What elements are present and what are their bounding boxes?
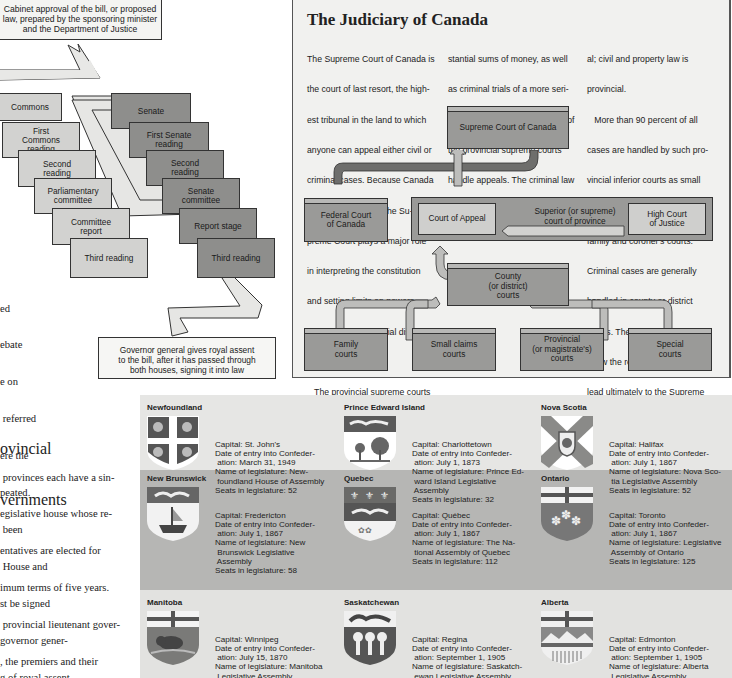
assent-line: Governor general gives royal assent (99, 345, 275, 355)
text-line: e on (0, 376, 98, 388)
court-label: Familycourts (334, 340, 358, 359)
court-label: High Courtof Justice (647, 210, 687, 229)
text-line: stantial sums of money, as well (448, 54, 575, 64)
province-name: Newfoundland (147, 403, 337, 412)
text-line: est tribunal in the land to which (307, 115, 434, 125)
province-new-brunswick: New Brunswick Capital: FrederictonDate o… (147, 474, 337, 483)
step-label: Third reading (212, 254, 261, 263)
newfoundland-coat-of-arms-icon (147, 416, 199, 470)
province-info: Capital: FrederictonDate of entry into C… (215, 492, 315, 594)
assent-line: both houses, signing it into law (99, 365, 275, 375)
province-info: Capital: ReginaDate of entry into Confed… (412, 616, 522, 678)
judiciary-title: The Judiciary of Canada (307, 10, 488, 30)
step-label: Third reading (85, 254, 134, 263)
province-ontario: Ontario ✽✽✽ Capital: TorontoDate of entr… (541, 474, 731, 483)
nova-scotia-coat-of-arms-icon (541, 416, 593, 470)
svg-text:✽: ✽ (561, 508, 571, 522)
step-label: Committee report (69, 218, 113, 236)
text-line: More than 90 percent of all (587, 115, 708, 125)
superior-arrow (500, 225, 626, 237)
small-claims-courts-box: Small claimscourts (412, 328, 496, 371)
text-line: provinces each have a sin- (0, 472, 140, 484)
county-courts-box: County(or district)courts (447, 263, 569, 306)
provincial-governments-body: provinces each have a sin- egislative ho… (0, 447, 140, 678)
svg-text:⚜: ⚜ (350, 490, 359, 501)
province-name: Manitoba (147, 598, 337, 607)
court-label: County(or district)courts (488, 268, 527, 301)
commons-third-reading-box: Third reading (70, 238, 148, 278)
federal-court-box: Federal Courtof Canada (304, 198, 388, 242)
ontario-coat-of-arms-icon: ✽✽✽ (541, 487, 593, 541)
court-of-appeal-box: Court of Appeal (418, 203, 496, 235)
province-pei: Prince Edward Island Capital: Charlottet… (344, 403, 534, 412)
step-label: First Senate reading (141, 131, 197, 149)
senate-third-reading-box: Third reading (197, 238, 275, 278)
province-info: Capital: WinnipegDate of entry into Conf… (215, 616, 323, 678)
province-alberta: Alberta Capital: EdmontonDate of entry i… (541, 598, 731, 607)
text-line: ebate (0, 339, 98, 351)
step-label: Second reading (165, 159, 205, 177)
royal-assent-box: Governor general gives royal assent to t… (98, 337, 276, 379)
text-line: entatives are elected for (0, 545, 140, 557)
text-line: , the premiers and their (0, 656, 140, 668)
province-info: Capital: TorontoDate of entry into Confe… (609, 492, 721, 585)
province-name: Prince Edward Island (344, 403, 534, 412)
province-name: Nova Scotia (541, 403, 731, 412)
manitoba-coat-of-arms-icon (147, 611, 199, 665)
text-line: imum terms of five years. (0, 582, 140, 594)
assent-line: to the bill, after it has passed through (99, 355, 275, 365)
text-line: egislative house whose re- (0, 508, 140, 520)
province-name: Saskatchewan (344, 598, 534, 607)
court-label: Supreme Court of Canada (460, 123, 557, 133)
alberta-coat-of-arms-icon (541, 611, 593, 665)
supreme-court-box: Supreme Court of Canada (447, 106, 569, 149)
senate-label: Senate (138, 107, 164, 116)
step-label: Report stage (194, 222, 242, 231)
commons-label: Commons (11, 103, 49, 112)
text-line: as criminal trials of a more seri- (448, 84, 575, 94)
text-line: provincial lieutenant gover- (0, 619, 140, 631)
text-line: The Supreme Court of Canada is (307, 54, 434, 64)
text-line: ed (0, 303, 98, 315)
province-nova-scotia: Nova Scotia Capital: HalifaxDate of entr… (541, 403, 731, 412)
province-name: Quebec (344, 474, 534, 483)
quebec-coat-of-arms-icon: ⚜⚜⚜ ✿✿ (344, 487, 396, 541)
saskatchewan-coat-of-arms-icon (344, 611, 396, 665)
province-saskatchewan: Saskatchewan Capital: ReginaDate of entr… (344, 598, 534, 607)
province-info: Capital: QuébecDate of entry into Confed… (412, 492, 515, 585)
court-appeal-arrows (292, 150, 732, 350)
province-newfoundland: Newfoundland Capital: St. John'sDate of … (147, 403, 337, 412)
step-label: Senate committee (179, 187, 223, 205)
court-label: Federal Courtof Canada (321, 211, 372, 230)
province-name: Ontario (541, 474, 731, 483)
province-manitoba: Manitoba Capital: WinnipegDate of entry … (147, 598, 337, 607)
svg-text:✿✿: ✿✿ (358, 526, 372, 535)
province-quebec: Quebec ⚜⚜⚜ ✿✿ Capital: QuébecDate of ent… (344, 474, 534, 483)
text-line: the court of last resort, the high- (307, 84, 434, 94)
text-line: al; civil and property law is (587, 54, 708, 64)
svg-text:⚜: ⚜ (365, 490, 374, 501)
high-court-box: High Courtof Justice (628, 203, 706, 235)
provincial-courts-box: Provincial(or magistrate's)courts (520, 328, 604, 371)
pei-coat-of-arms-icon (344, 416, 396, 470)
court-label: Specialcourts (656, 340, 683, 359)
superior-court-label: Superior (or supreme)court of province (520, 207, 630, 226)
svg-text:⚜: ⚜ (380, 490, 389, 501)
court-label: Small claimscourts (431, 340, 478, 359)
special-courts-box: Specialcourts (628, 328, 712, 371)
court-label: Provincial(or magistrate's)courts (532, 335, 592, 364)
commons-header: Commons (0, 93, 62, 121)
step-label: Parliamentary committee (43, 187, 103, 205)
svg-text:✽: ✽ (551, 514, 561, 528)
province-name: New Brunswick (147, 474, 337, 483)
svg-text:✽: ✽ (571, 514, 581, 528)
court-label: Court of Appeal (428, 214, 485, 224)
text-line: provincial. (587, 84, 708, 94)
family-courts-box: Familycourts (304, 328, 388, 371)
province-info: Capital: EdmontonDate of entry into Conf… (609, 616, 709, 678)
step-label: Second reading (37, 160, 77, 178)
new-brunswick-coat-of-arms-icon (147, 487, 199, 541)
province-name: Alberta (541, 598, 731, 607)
